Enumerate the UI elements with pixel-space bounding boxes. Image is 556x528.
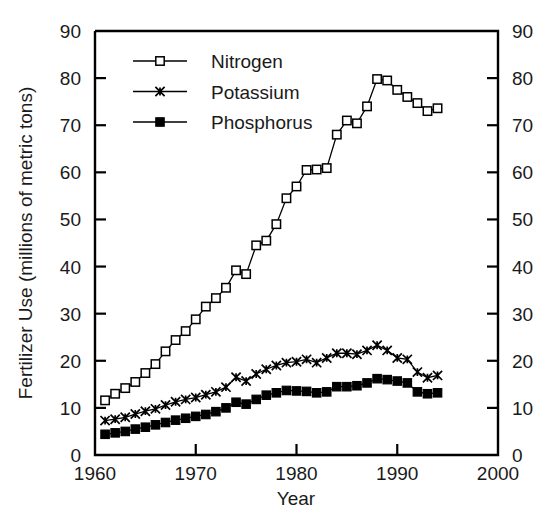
data-point-phosphorus (343, 382, 351, 390)
x-tick-labels: 19601970198019902000 (74, 463, 519, 484)
data-point-nitrogen (323, 164, 331, 172)
data-point-potassium (322, 353, 331, 362)
y-tick-label-right: 10 (512, 398, 533, 419)
legend-marker-nitrogen (156, 57, 164, 65)
x-tick-label: 1980 (275, 463, 317, 484)
data-point-nitrogen (353, 119, 361, 127)
y-tick-label-right: 50 (512, 209, 533, 230)
data-point-nitrogen (202, 302, 210, 310)
y-tick-label-left: 0 (70, 445, 81, 466)
data-point-phosphorus (111, 429, 119, 437)
y-tick-label-left: 10 (60, 398, 81, 419)
data-point-phosphorus (232, 398, 240, 406)
data-point-nitrogen (423, 107, 431, 115)
x-tick-label: 2000 (477, 463, 519, 484)
data-point-phosphorus (363, 379, 371, 387)
data-point-potassium (151, 404, 160, 413)
y-tick-labels-right: 0102030405060708090 (512, 21, 533, 466)
data-point-phosphorus (262, 391, 270, 399)
y-tick-label-left: 80 (60, 68, 81, 89)
data-point-nitrogen (333, 130, 341, 138)
data-point-nitrogen (161, 347, 169, 355)
data-point-nitrogen (282, 194, 290, 202)
data-point-phosphorus (393, 377, 401, 385)
x-tick-label: 1990 (376, 463, 418, 484)
y-tick-labels-left: 0102030405060708090 (60, 21, 81, 466)
data-point-potassium (362, 346, 371, 355)
data-point-phosphorus (222, 404, 230, 412)
data-point-phosphorus (383, 375, 391, 383)
data-point-phosphorus (141, 423, 149, 431)
data-point-potassium (312, 358, 321, 367)
data-point-potassium (231, 373, 240, 382)
y-tick-label-left: 40 (60, 257, 81, 278)
data-point-nitrogen (252, 241, 260, 249)
data-point-potassium (171, 397, 180, 406)
data-point-phosphorus (413, 388, 421, 396)
data-point-nitrogen (383, 76, 391, 84)
data-point-phosphorus (121, 427, 129, 435)
legend-label-potassium: Potassium (211, 82, 300, 103)
data-point-phosphorus (161, 418, 169, 426)
y-tick-label-right: 20 (512, 351, 533, 372)
data-point-potassium (302, 355, 311, 364)
data-point-potassium (201, 390, 210, 399)
data-point-phosphorus (151, 421, 159, 429)
y-tick-label-left: 50 (60, 209, 81, 230)
legend-marker-phosphorus (156, 118, 164, 126)
data-point-potassium (373, 341, 382, 350)
data-point-phosphorus (101, 430, 109, 438)
legend-label-nitrogen: Nitrogen (211, 51, 283, 72)
data-point-nitrogen (151, 360, 159, 368)
data-point-nitrogen (403, 93, 411, 101)
data-point-potassium (242, 376, 251, 385)
data-point-phosphorus (202, 410, 210, 418)
legend-label-phosphorus: Phosphorus (211, 112, 312, 133)
data-point-nitrogen (292, 182, 300, 190)
data-point-phosphorus (282, 386, 290, 394)
data-point-phosphorus (323, 388, 331, 396)
y-tick-label-left: 30 (60, 304, 81, 325)
data-point-phosphorus (181, 414, 189, 422)
y-tick-label-right: 60 (512, 162, 533, 183)
data-point-nitrogen (181, 327, 189, 335)
y-tick-label-right: 70 (512, 115, 533, 136)
data-point-potassium (423, 373, 432, 382)
data-point-phosphorus (423, 390, 431, 398)
data-point-nitrogen (141, 369, 149, 377)
data-point-nitrogen (222, 284, 230, 292)
x-tick-label: 1960 (74, 463, 116, 484)
data-point-nitrogen (242, 270, 250, 278)
data-point-phosphorus (171, 416, 179, 424)
y-tick-label-left: 20 (60, 351, 81, 372)
data-point-phosphorus (131, 425, 139, 433)
tick-marks (95, 78, 498, 455)
line-chart: 19601970198019902000 0102030405060708090… (0, 0, 556, 528)
x-tick-label: 1970 (175, 463, 217, 484)
data-point-potassium (413, 367, 422, 376)
data-point-potassium (252, 369, 261, 378)
y-tick-label-right: 40 (512, 257, 533, 278)
data-point-phosphorus (373, 374, 381, 382)
y-tick-label-right: 90 (512, 21, 533, 42)
data-point-phosphorus (292, 387, 300, 395)
y-tick-label-right: 80 (512, 68, 533, 89)
data-point-nitrogen (101, 396, 109, 404)
data-point-nitrogen (363, 102, 371, 110)
data-point-nitrogen (121, 384, 129, 392)
data-point-nitrogen (343, 116, 351, 124)
data-point-potassium (211, 387, 220, 396)
data-point-nitrogen (373, 75, 381, 83)
chart-legend: NitrogenPotassiumPhosphorus (133, 51, 312, 133)
legend-entry-nitrogen: Nitrogen (133, 51, 283, 72)
data-point-potassium (221, 383, 230, 392)
data-point-phosphorus (353, 382, 361, 390)
data-point-nitrogen (272, 220, 280, 228)
data-point-potassium (131, 409, 140, 418)
x-axis-title: Year (277, 488, 316, 509)
data-point-phosphorus (212, 407, 220, 415)
data-point-phosphorus (333, 382, 341, 390)
data-point-nitrogen (262, 236, 270, 244)
data-point-nitrogen (393, 86, 401, 94)
data-point-nitrogen (212, 294, 220, 302)
